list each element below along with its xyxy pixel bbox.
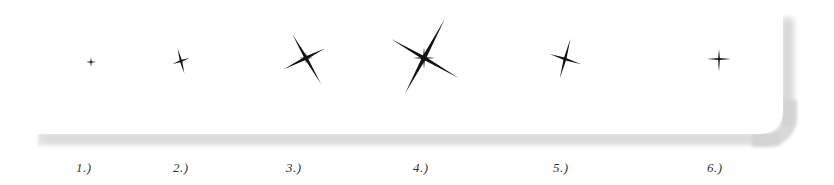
card-shadow-bottom (38, 133, 780, 147)
sparkle-icon-5 (545, 37, 585, 81)
label-1: 1.) (76, 160, 92, 176)
sparkle-icon-4 (384, 13, 464, 103)
sparkle-icon-6 (704, 44, 734, 74)
label-4: 4.) (413, 160, 429, 176)
sparkle-icon-2 (166, 46, 196, 76)
sparkle-icon-1 (81, 52, 101, 72)
label-6: 6.) (707, 160, 723, 176)
label-3: 3.) (286, 160, 302, 176)
figure: 1.) 2.) 3.) 4.) 5.) 6.) (0, 0, 834, 185)
sparkle-icon-3 (276, 28, 336, 88)
label-5: 5.) (553, 160, 569, 176)
label-2: 2.) (173, 160, 189, 176)
